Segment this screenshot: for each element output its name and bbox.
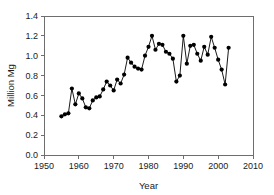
- y-tick-label: 0.4: [25, 110, 38, 120]
- x-tick-label: 1960: [69, 161, 89, 171]
- data-point: [227, 46, 231, 50]
- data-point: [185, 62, 189, 66]
- data-point: [66, 111, 70, 115]
- data-point: [150, 34, 154, 38]
- data-point: [202, 45, 206, 49]
- y-tick-label: 0.0: [25, 150, 38, 160]
- x-axis-tick-labels: 1950196019701980199020002010: [34, 161, 263, 171]
- x-tick-label: 1970: [104, 161, 124, 171]
- data-point: [77, 91, 81, 95]
- y-tick-label: 1.0: [25, 51, 38, 61]
- data-point: [178, 73, 182, 77]
- data-point: [206, 53, 210, 57]
- data-point: [174, 79, 178, 83]
- data-point: [167, 52, 171, 56]
- data-point: [192, 43, 196, 47]
- data-point: [181, 34, 185, 38]
- chart-figure: 1950196019701980199020002010 0.00.20.40.…: [0, 0, 274, 195]
- x-tick-label: 2010: [243, 161, 263, 171]
- x-tick-label: 1950: [34, 161, 54, 171]
- data-point: [195, 52, 199, 56]
- data-point: [146, 45, 150, 49]
- data-point: [153, 48, 157, 52]
- data-point: [122, 72, 126, 76]
- data-point: [91, 98, 95, 102]
- data-point: [87, 106, 91, 110]
- data-point: [126, 56, 130, 60]
- line-chart: 1950196019701980199020002010 0.00.20.40.…: [0, 0, 274, 195]
- y-axis-ticks: [41, 16, 45, 155]
- series-group: [59, 34, 230, 119]
- data-point: [108, 83, 112, 87]
- data-point: [143, 54, 147, 58]
- y-axis-title: Million Mg: [5, 64, 16, 107]
- x-axis-title: Year: [139, 180, 158, 191]
- y-tick-label: 0.8: [25, 71, 38, 81]
- data-point: [98, 94, 102, 98]
- data-point: [119, 81, 123, 85]
- data-point: [213, 46, 217, 50]
- y-axis-tick-labels: 0.00.20.40.60.81.01.21.4: [25, 11, 38, 160]
- data-point: [115, 77, 119, 81]
- data-point: [129, 61, 133, 65]
- x-tick-label: 1990: [173, 161, 193, 171]
- x-tick-label: 1980: [138, 161, 158, 171]
- plot-frame: [44, 16, 253, 155]
- x-tick-label: 2000: [208, 161, 228, 171]
- data-point: [209, 35, 213, 39]
- data-point: [223, 82, 227, 86]
- data-point: [112, 88, 116, 92]
- data-point: [80, 96, 84, 100]
- data-point: [73, 102, 77, 106]
- data-point: [220, 68, 224, 72]
- data-point: [216, 58, 220, 62]
- data-point: [101, 87, 105, 91]
- y-tick-label: 0.2: [25, 130, 38, 140]
- y-tick-label: 1.4: [25, 11, 38, 21]
- data-point: [199, 59, 203, 63]
- data-point: [160, 43, 164, 47]
- y-tick-label: 0.6: [25, 91, 38, 101]
- y-tick-label: 1.2: [25, 31, 38, 41]
- data-point: [70, 86, 74, 90]
- data-point: [105, 79, 109, 83]
- x-axis-ticks: [44, 155, 253, 159]
- series-markers: [59, 34, 230, 119]
- data-point: [139, 68, 143, 72]
- data-point: [171, 57, 175, 61]
